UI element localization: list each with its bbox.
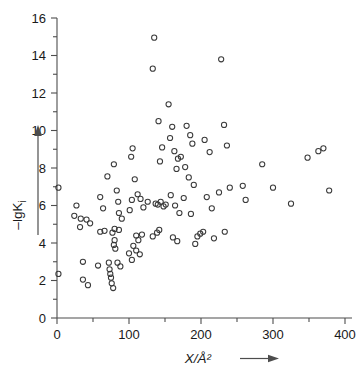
data-point — [136, 238, 141, 243]
y-axis-arrow — [34, 125, 42, 235]
data-point — [138, 196, 143, 201]
scatter-points — [56, 35, 332, 291]
data-point — [305, 155, 310, 160]
data-point — [152, 35, 157, 40]
y-tick-label: 6 — [39, 198, 46, 213]
x-axis-tick-labels: 0100200300400 — [53, 327, 355, 342]
data-point — [183, 164, 188, 169]
x-axis-ticks — [57, 318, 345, 324]
data-point — [316, 149, 321, 154]
data-point — [114, 188, 119, 193]
data-point — [190, 141, 195, 146]
data-point — [221, 122, 226, 127]
x-axis-title: X/Å² — [184, 351, 212, 366]
data-point — [119, 216, 124, 221]
y-axis-tick-labels: 0246810121416 — [32, 11, 46, 326]
data-point — [270, 185, 275, 190]
data-point — [175, 239, 180, 244]
data-point — [139, 232, 144, 237]
data-point — [72, 213, 77, 218]
data-point — [177, 210, 182, 215]
data-point — [74, 203, 79, 208]
data-point — [108, 275, 113, 280]
x-tick-label: 200 — [190, 327, 212, 342]
data-point — [116, 210, 121, 215]
data-point — [77, 224, 82, 229]
y-tick-label: 16 — [32, 11, 46, 26]
x-tick-label: 100 — [118, 327, 140, 342]
axes — [57, 18, 352, 318]
data-point — [167, 135, 172, 140]
data-point — [193, 241, 198, 246]
y-tick-label: 2 — [39, 273, 46, 288]
data-point — [127, 208, 132, 213]
x-tick-label: 0 — [53, 327, 60, 342]
data-point — [145, 199, 150, 204]
data-point — [224, 143, 229, 148]
data-point — [106, 260, 111, 265]
data-point — [172, 203, 177, 208]
data-point — [141, 205, 146, 210]
data-point — [321, 146, 326, 151]
y-tick-label: 8 — [39, 161, 46, 176]
data-point — [222, 229, 227, 234]
data-point — [100, 206, 105, 211]
data-point — [126, 251, 131, 256]
data-point — [150, 234, 155, 239]
data-point — [118, 264, 123, 269]
data-point — [170, 235, 175, 240]
y-tick-label: 0 — [39, 311, 46, 326]
chart-svg: 0246810121416 0100200300400 –lgKi X/Å² — [0, 0, 359, 371]
data-point — [204, 194, 209, 199]
data-point — [168, 193, 173, 198]
data-point — [216, 190, 221, 195]
y-tick-label: 14 — [32, 48, 46, 63]
data-point — [129, 257, 134, 262]
data-point — [219, 57, 224, 62]
y-tick-label: 4 — [39, 236, 46, 251]
data-point — [111, 162, 116, 167]
data-point — [170, 124, 175, 129]
data-point — [129, 154, 134, 159]
data-point — [227, 185, 232, 190]
data-point — [116, 199, 121, 204]
data-point — [207, 149, 212, 154]
data-point — [288, 201, 293, 206]
data-point — [105, 174, 110, 179]
y-tick-label: 12 — [32, 86, 46, 101]
data-point — [111, 285, 116, 290]
x-axis-title-group: X/Å² — [184, 351, 279, 366]
data-point — [188, 211, 193, 216]
data-point — [172, 149, 177, 154]
data-point — [132, 177, 137, 182]
x-tick-label: 300 — [262, 327, 284, 342]
data-point — [186, 175, 191, 180]
data-point — [157, 159, 162, 164]
data-point — [78, 216, 83, 221]
y-axis-title: –lgKi — [10, 200, 28, 229]
data-point — [150, 66, 155, 71]
data-point — [209, 206, 214, 211]
data-point — [260, 162, 265, 167]
scatter-plot-figure: 0246810121416 0100200300400 –lgKi X/Å² — [0, 0, 359, 371]
data-point — [156, 119, 161, 124]
data-point — [98, 194, 103, 199]
data-point — [202, 137, 207, 142]
data-point — [130, 146, 135, 151]
data-point — [240, 183, 245, 188]
data-point — [191, 182, 196, 187]
data-point — [80, 259, 85, 264]
data-point — [181, 195, 186, 200]
data-point — [88, 221, 93, 226]
data-point — [188, 133, 193, 138]
data-point — [174, 166, 179, 171]
data-point — [211, 236, 216, 241]
data-point — [243, 197, 248, 202]
data-point — [80, 277, 85, 282]
x-tick-label: 400 — [334, 327, 356, 342]
data-point — [137, 252, 142, 257]
data-point — [129, 197, 134, 202]
data-point — [327, 188, 332, 193]
data-point — [95, 263, 100, 268]
data-point — [166, 102, 171, 107]
